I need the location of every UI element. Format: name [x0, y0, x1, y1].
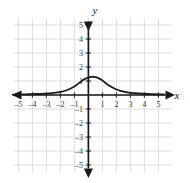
- x-tick-label: 1: [100, 100, 104, 109]
- x-tick-label: 5: [156, 100, 160, 109]
- x-tick-label: –5: [13, 100, 22, 109]
- x-tick-label: 2: [114, 100, 118, 109]
- y-tick-label: –4: [74, 147, 83, 156]
- x-tick-label: –4: [27, 100, 36, 109]
- y-tick-label: 5: [79, 21, 83, 30]
- x-tick-label: –2: [55, 100, 64, 109]
- graph-figure: –5 –4 –3 –2 –1 1 2 3 4 5 5 4 3 2 1 –1 –2…: [0, 0, 190, 183]
- y-tick-label: –1: [74, 105, 83, 114]
- y-tick-label: 2: [79, 63, 83, 72]
- x-axis-label: x: [174, 89, 180, 101]
- y-tick-label: –3: [74, 133, 83, 142]
- x-tick-label: 3: [128, 100, 132, 109]
- coordinate-plane: –5 –4 –3 –2 –1 1 2 3 4 5 5 4 3 2 1 –1 –2…: [0, 0, 190, 183]
- figure-background: [0, 0, 190, 183]
- x-tick-label: –3: [41, 100, 50, 109]
- x-tick-label: 4: [142, 100, 146, 109]
- y-tick-label: –2: [74, 119, 83, 128]
- y-tick-label: 3: [79, 49, 83, 58]
- y-axis-label: y: [92, 4, 98, 16]
- y-tick-label: –5: [74, 161, 83, 170]
- y-tick-label: 4: [79, 35, 83, 44]
